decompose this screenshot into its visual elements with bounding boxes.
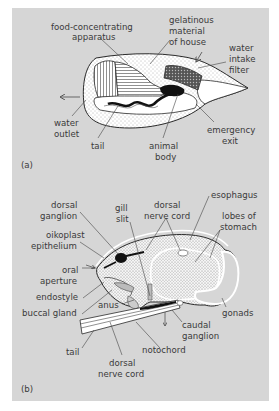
label-animal-body-2: body xyxy=(155,152,176,162)
label-water-intake-filter-3: filter xyxy=(229,65,249,75)
label-caudal-ganglion-2: ganglion xyxy=(182,331,219,341)
dorsal-ganglion xyxy=(115,253,127,263)
label-anus: anus xyxy=(98,300,119,310)
food-concentrating-apparatus xyxy=(94,61,118,97)
label-water-outlet-2: outlet xyxy=(54,129,80,139)
label-gelatinous-material-1: gelatinous xyxy=(169,15,214,25)
label-dorsal-nerve-cord-bottom-2: nerve cord xyxy=(98,369,144,379)
label-gelatinous-material-2: material xyxy=(169,26,205,36)
label-dorsal-nerve-cord-bottom-1: dorsal xyxy=(109,358,135,368)
label-oikoplast-epithelium-2: epithelium xyxy=(31,241,77,251)
label-tail-a: tail xyxy=(91,141,104,151)
label-dorsal-ganglion-1: dorsal xyxy=(51,200,77,210)
figure-a-house-diagram: food-concentrating apparatus gelatinous … xyxy=(21,15,255,170)
label-dorsal-nerve-cord-top-2: nerve cord xyxy=(144,211,190,221)
panel-label-a: (a) xyxy=(21,160,33,170)
label-tail-b: tail xyxy=(66,347,79,357)
label-dorsal-ganglion-2: ganglion xyxy=(40,211,77,221)
label-lobes-of-stomach-2: stomach xyxy=(220,222,257,232)
label-oikoplast-epithelium-1: oikoplast xyxy=(46,230,85,240)
label-dorsal-nerve-cord-top-1: dorsal xyxy=(154,200,180,210)
caudal-ganglion xyxy=(177,301,183,306)
label-food-concentrating-apparatus-1: food-concentrating xyxy=(51,22,133,32)
label-animal-body-1: animal xyxy=(149,141,178,151)
figure-b-anatomy-diagram: esophagus dorsal ganglion gill slit dors… xyxy=(21,190,258,394)
label-endostyle: endostyle xyxy=(36,292,78,302)
label-water-outlet-1: water xyxy=(54,118,79,128)
label-caudal-ganglion-1: caudal xyxy=(182,320,211,330)
larvacean-diagram: food-concentrating apparatus gelatinous … xyxy=(0,0,279,411)
label-notochord: notochord xyxy=(142,345,186,355)
label-emergency-exit-2: exit xyxy=(222,136,239,146)
label-food-concentrating-apparatus-2: apparatus xyxy=(72,32,116,42)
label-water-intake-filter-2: intake xyxy=(229,54,255,64)
label-gill-slit-1: gill xyxy=(115,203,128,213)
label-oral-aperture-2: aperture xyxy=(40,276,77,286)
panel-label-b: (b) xyxy=(21,384,33,394)
label-gelatinous-material-3: of house xyxy=(169,37,206,47)
label-gill-slit-2: slit xyxy=(116,214,129,224)
label-gonads: gonads xyxy=(222,308,254,318)
label-lobes-of-stomach-1: lobes of xyxy=(222,211,257,221)
label-buccal-gland: buccal gland xyxy=(22,308,77,318)
label-esophagus: esophagus xyxy=(211,190,258,200)
label-water-intake-filter-1: water xyxy=(229,43,254,53)
label-emergency-exit-1: emergency xyxy=(207,125,255,135)
label-oral-aperture-1: oral xyxy=(62,265,78,275)
